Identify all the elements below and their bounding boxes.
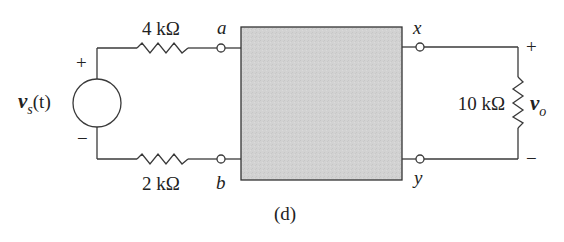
resistor-10k-label: 10 kΩ [458,93,505,114]
terminal-a: a [217,17,227,52]
source-plus-sign: + [76,52,87,73]
terminal-b: b [216,155,226,193]
terminal-node-icon [217,155,225,163]
resistor-zigzag-icon [137,43,188,53]
resistor-zigzag-icon [137,154,188,164]
output-voltage: + − vo [526,36,546,169]
output-label-sub: o [539,104,546,119]
figure-caption: (d) [274,203,296,225]
source-label-arg: (t) [33,91,51,113]
terminal-node-icon [217,44,225,52]
resistor-4k: 4 kΩ [137,18,188,53]
terminal-y: y [412,155,424,188]
terminal-x: x [412,17,424,51]
resistor-4k-label: 4 kΩ [142,18,180,39]
two-port-network-box [241,27,402,180]
terminal-x-label: x [412,17,422,38]
terminal-node-icon [416,155,424,163]
resistor-2k-label: 2 kΩ [142,173,180,194]
terminal-y-label: y [412,167,423,188]
resistor-10k-load: 10 kΩ [458,77,523,128]
source-circle-icon [73,79,121,127]
resistor-zigzag-icon [513,77,523,128]
terminal-a-label: a [217,17,227,38]
terminal-node-icon [416,43,424,51]
source-label: vs(t) [18,89,51,117]
source-minus-sign: − [77,128,88,149]
circuit-diagram: + − vs(t) 4 kΩ 2 kΩ a b [0,0,564,242]
resistor-2k: 2 kΩ [137,154,188,194]
voltage-source: + − vs(t) [18,52,121,149]
output-label: vo [530,91,546,119]
output-plus-sign: + [526,36,537,57]
output-minus-sign: − [526,148,537,169]
terminal-b-label: b [216,172,226,193]
